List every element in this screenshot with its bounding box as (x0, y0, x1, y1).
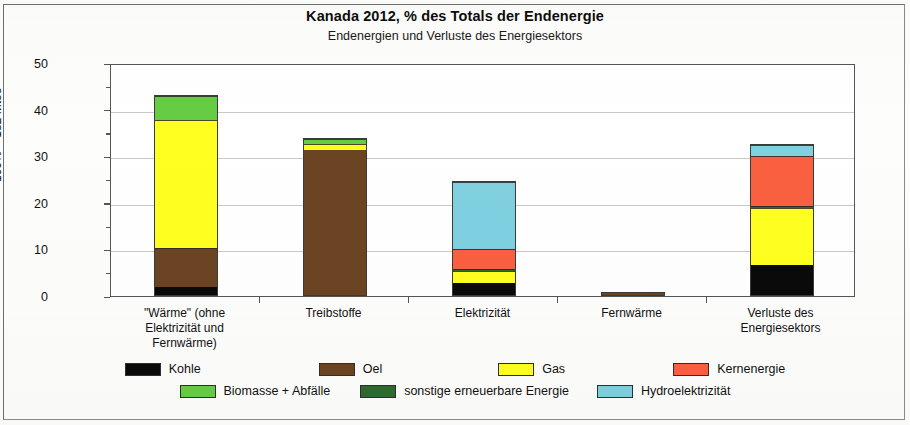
bar-group (260, 65, 409, 296)
y-tick-label: 30 (8, 150, 48, 164)
legend-label: Kernenergie (717, 362, 785, 376)
bar-segment (453, 271, 515, 283)
legend-label: Kohle (169, 362, 201, 376)
chart-title: Kanada 2012, % des Totals der Endenergie (0, 8, 910, 24)
bar-segment (751, 208, 813, 265)
stacked-bar (601, 292, 665, 296)
bar-segment (453, 249, 515, 269)
x-tick (557, 297, 558, 303)
plot-area (110, 64, 855, 297)
chart-legend: KohleOelGasKernenergieBiomasse + Abfälle… (0, 358, 910, 402)
bars-layer (111, 65, 854, 296)
bar-segment (155, 96, 217, 121)
legend-label: Hydroelektrizität (641, 384, 731, 398)
x-category-line: Verluste des (706, 306, 855, 321)
bar-group (558, 65, 707, 296)
x-tick (706, 297, 707, 303)
x-category-line: "Wärme" (ohne (110, 306, 259, 321)
legend-swatch (319, 363, 355, 376)
y-axis-label: 100% = 182 Mtoe (0, 88, 4, 182)
x-category-line: Treibstoffe (259, 306, 408, 321)
y-tick-minor (106, 87, 110, 88)
legend-item: Kohle (125, 362, 201, 376)
legend-label: Biomasse + Abfälle (224, 384, 331, 398)
bar-segment (304, 150, 366, 295)
legend-label: Oel (363, 362, 382, 376)
legend-label: sonstige erneuerbare Energie (404, 384, 569, 398)
chart-page: Kanada 2012, % des Totals der Endenergie… (0, 0, 910, 425)
x-category-line: Elektrizität (408, 306, 557, 321)
bar-segment (155, 120, 217, 248)
y-tick-label: 50 (8, 57, 48, 71)
bar-segment (453, 283, 515, 295)
stacked-bar (154, 95, 218, 296)
legend-label: Gas (542, 362, 565, 376)
y-tick-major (104, 203, 110, 204)
bar-segment (751, 145, 813, 156)
y-tick-major (104, 157, 110, 158)
bar-segment (453, 182, 515, 249)
legend-row: KohleOelGasKernenergie (0, 358, 910, 380)
y-tick-major (104, 250, 110, 251)
y-tick-major (104, 297, 110, 298)
bar-segment (155, 287, 217, 295)
bar-group (409, 65, 558, 296)
legend-row: Biomasse + Abfällesonstige erneuerbare E… (0, 380, 910, 402)
x-category-label: Treibstoffe (259, 306, 408, 321)
bar-group (707, 65, 856, 296)
bar-segment (751, 156, 813, 206)
bar-segment (155, 248, 217, 286)
legend-swatch (673, 363, 709, 376)
y-tick-label: 20 (8, 197, 48, 211)
legend-swatch (360, 385, 396, 398)
bar-segment (602, 293, 664, 295)
y-tick-minor (106, 273, 110, 274)
legend-item: Gas (498, 362, 565, 376)
legend-swatch (498, 363, 534, 376)
bar-group (111, 65, 260, 296)
legend-item: sonstige erneuerbare Energie (360, 384, 569, 398)
y-tick-label: 40 (8, 104, 48, 118)
y-tick-minor (106, 133, 110, 134)
stacked-bar (750, 144, 814, 296)
legend-item: Oel (319, 362, 382, 376)
x-category-label: Fernwärme (557, 306, 706, 321)
legend-swatch (597, 385, 633, 398)
legend-swatch (125, 363, 161, 376)
bar-segment (751, 265, 813, 295)
y-tick-major (104, 64, 110, 65)
x-category-line: Fernwärme) (110, 336, 259, 351)
y-tick-major (104, 110, 110, 111)
legend-item: Biomasse + Abfälle (180, 384, 331, 398)
x-tick (408, 297, 409, 303)
y-tick-minor (106, 180, 110, 181)
legend-item: Kernenergie (673, 362, 785, 376)
legend-item: Hydroelektrizität (597, 384, 731, 398)
x-category-label: Elektrizität (408, 306, 557, 321)
stacked-bar (303, 138, 367, 296)
y-tick-label: 0 (8, 290, 48, 304)
stacked-bar (452, 181, 516, 296)
chart-subtitle: Endenergien und Verluste des Energiesekt… (0, 29, 910, 43)
x-category-line: Energiesektors (706, 321, 855, 336)
x-category-line: Elektrizität und (110, 321, 259, 336)
legend-swatch (180, 385, 216, 398)
x-category-label: "Wärme" (ohneElektrizität undFernwärme) (110, 306, 259, 351)
x-category-label: Verluste desEnergiesektors (706, 306, 855, 336)
x-tick (259, 297, 260, 303)
y-tick-label: 10 (8, 243, 48, 257)
x-category-line: Fernwärme (557, 306, 706, 321)
y-tick-minor (106, 227, 110, 228)
